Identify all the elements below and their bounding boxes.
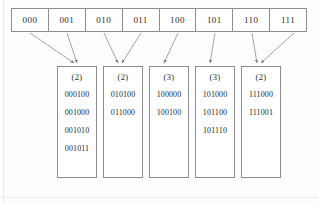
- bucket-row: (2) 000100 001000 001010 001011 (2) 0101…: [57, 66, 281, 178]
- pointer-arrow-000: [30, 33, 74, 63]
- bucket-4[interactable]: (2) 111000 111001: [241, 66, 281, 178]
- bucket-2-depth-label: (3): [164, 72, 175, 82]
- pointer-arrow-101: [210, 33, 215, 63]
- pointer-arrow-010: [104, 33, 118, 63]
- bucket-0-entry-3: 001011: [65, 144, 89, 153]
- bucket-2[interactable]: (3) 100000 100100: [149, 66, 189, 178]
- directory-cell-011[interactable]: 011: [123, 9, 160, 31]
- bucket-3-entry-2: 101110: [203, 126, 227, 135]
- bucket-4-entry-0: 111000: [249, 90, 273, 99]
- pointer-arrow-001: [67, 33, 77, 63]
- directory-cell-111[interactable]: 111: [270, 9, 306, 31]
- directory-cell-000[interactable]: 000: [12, 9, 49, 31]
- directory-cell-100[interactable]: 100: [160, 9, 197, 31]
- bucket-3-entry-0: 101000: [203, 90, 228, 99]
- bucket-0-entry-2: 001010: [65, 126, 90, 135]
- hash-index-diagram: 000 001 010 011 100 101 110 111 (2) 0001…: [0, 0, 318, 204]
- bucket-4-depth-label: (2): [256, 72, 267, 82]
- bucket-0-entry-0: 000100: [65, 90, 90, 99]
- bucket-2-entry-0: 100000: [157, 90, 182, 99]
- bucket-1[interactable]: (2) 010100 011000: [103, 66, 143, 178]
- bucket-1-entry-0: 010100: [111, 90, 136, 99]
- directory-cell-001[interactable]: 001: [49, 9, 86, 31]
- pointer-arrow-111: [261, 33, 294, 63]
- bucket-3-entry-1: 101100: [203, 108, 227, 117]
- bucket-3[interactable]: (3) 101000 101100 101110: [195, 66, 235, 178]
- directory-cell-010[interactable]: 010: [86, 9, 123, 31]
- bucket-0-entry-1: 001000: [65, 108, 90, 117]
- directory-row: 000 001 010 011 100 101 110 111: [11, 8, 307, 32]
- bucket-4-entry-1: 111001: [249, 108, 273, 117]
- pointer-arrow-011: [122, 33, 141, 63]
- bucket-1-entry-1: 011000: [111, 108, 135, 117]
- pointer-arrow-110: [252, 33, 257, 63]
- bucket-1-depth-label: (2): [118, 72, 129, 82]
- bucket-0-depth-label: (2): [72, 72, 83, 82]
- pointer-arrow-100: [164, 33, 178, 63]
- directory-cell-110[interactable]: 110: [233, 9, 270, 31]
- directory-cell-101[interactable]: 101: [196, 9, 233, 31]
- bucket-0[interactable]: (2) 000100 001000 001010 001011: [57, 66, 97, 178]
- bucket-3-depth-label: (3): [210, 72, 221, 82]
- bucket-2-entry-1: 100100: [157, 108, 182, 117]
